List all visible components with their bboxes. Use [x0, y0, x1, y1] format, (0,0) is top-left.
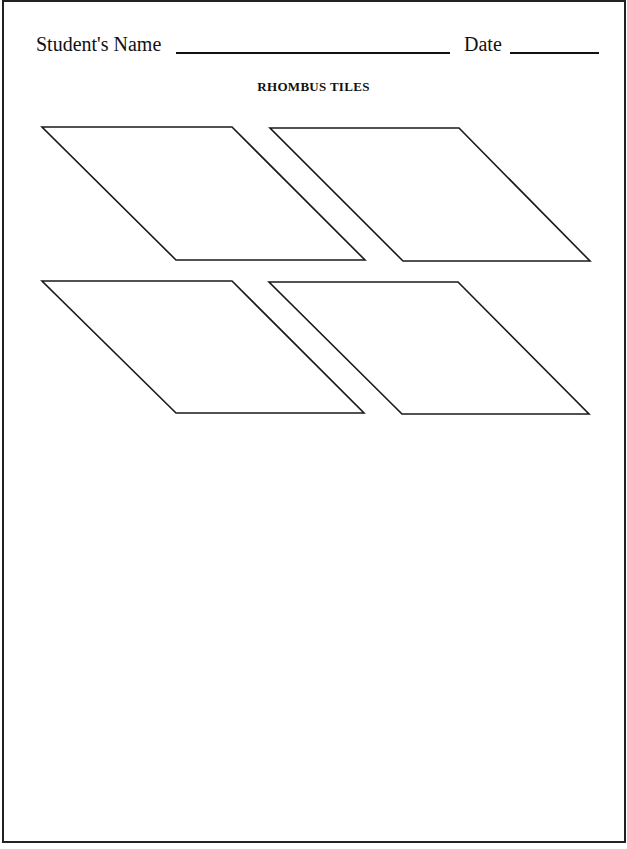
rhombus-tiles: [0, 0, 627, 849]
